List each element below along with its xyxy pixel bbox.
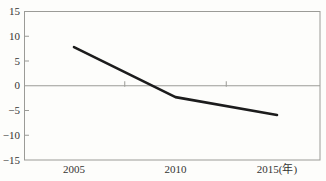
y-axis-label-10: 10 (9, 30, 21, 42)
y-axis-label--15: −15 (3, 154, 21, 166)
y-axis-label-0: 0 (15, 79, 21, 91)
y-axis-label--5: −5 (8, 104, 20, 116)
y-axis-label-5: 5 (15, 55, 21, 67)
y-axis-label-15: 15 (9, 5, 21, 17)
x-axis-label-2005: 2005 (63, 163, 86, 175)
x-axis-label-2015: 2015(年) (257, 162, 298, 176)
line-chart: 151050−5−10−15200520102015(年) (0, 0, 326, 181)
data-line-series (74, 47, 277, 115)
chart-canvas: 151050−5−10−15200520102015(年) (0, 0, 326, 181)
y-axis-label--10: −10 (3, 129, 21, 141)
x-axis-label-2010: 2010 (165, 163, 188, 175)
